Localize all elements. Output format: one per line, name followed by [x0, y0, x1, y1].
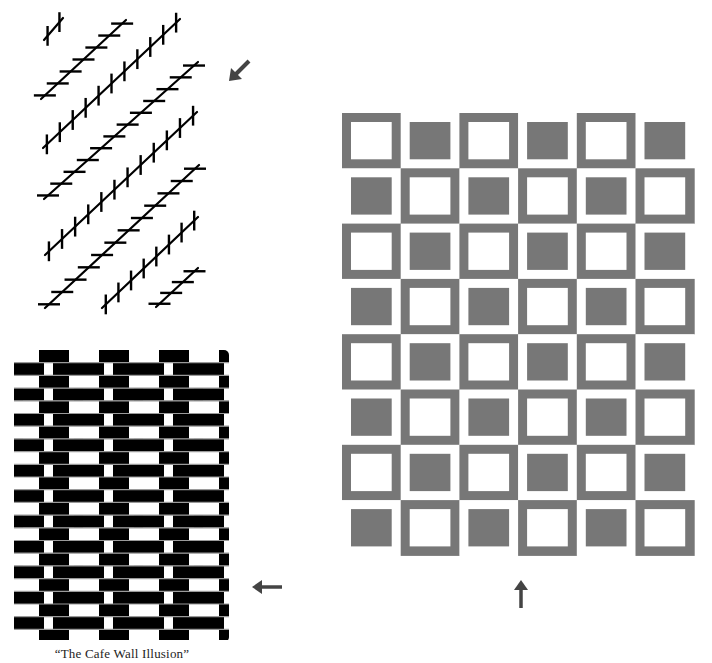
cafe-tile	[159, 579, 189, 592]
inner-square	[410, 233, 451, 270]
inner-square	[645, 122, 686, 159]
cafe-tile	[219, 477, 240, 490]
cafe-tile	[39, 375, 69, 388]
inner-square	[527, 177, 568, 214]
cafe-tile	[159, 477, 189, 490]
zollner-line	[102, 217, 198, 308]
inner-square	[468, 233, 509, 270]
cafe-tile	[39, 426, 69, 439]
cafe-tile	[39, 401, 69, 414]
cafe-tile	[99, 629, 129, 640]
inner-square	[410, 288, 451, 325]
cafe-tile	[99, 604, 129, 617]
arrow-down-left-icon	[226, 56, 256, 86]
cafe-wall-caption: “The Cafe Wall Illusion”	[0, 646, 244, 662]
inner-square	[468, 454, 509, 491]
cafe-tile	[159, 375, 189, 388]
cafe-tile	[219, 604, 240, 617]
cafe-tile	[219, 375, 240, 388]
cafe-tile	[39, 629, 69, 640]
inner-square	[410, 177, 451, 214]
inner-square	[410, 399, 451, 436]
inner-square	[468, 343, 509, 380]
cafe-tile	[219, 553, 240, 566]
inner-square	[645, 343, 686, 380]
cafe-tile	[219, 426, 240, 439]
inner-square	[645, 399, 686, 436]
cafe-tile	[99, 579, 129, 592]
inner-square	[527, 343, 568, 380]
cafe-tile	[159, 452, 189, 465]
inner-square	[410, 509, 451, 546]
inner-square	[351, 233, 392, 270]
inner-square	[351, 122, 392, 159]
inner-square	[351, 177, 392, 214]
cafe-tile	[39, 452, 69, 465]
inner-square	[586, 343, 627, 380]
inner-square	[468, 399, 509, 436]
inner-square	[468, 122, 509, 159]
inner-square	[645, 288, 686, 325]
inner-square	[351, 399, 392, 436]
cafe-tile	[99, 452, 129, 465]
cafe-tile	[219, 401, 240, 414]
inner-square	[410, 343, 451, 380]
cafe-tile	[159, 629, 189, 640]
cafe-tile	[39, 350, 69, 363]
inner-square	[645, 509, 686, 546]
inner-square	[351, 288, 392, 325]
inner-square	[527, 454, 568, 491]
cafe-tile	[39, 604, 69, 617]
cafe-wall-illusion	[0, 340, 240, 640]
inner-square	[410, 454, 451, 491]
arrow-up-icon	[512, 578, 530, 610]
cafe-tile	[99, 426, 129, 439]
arrow-left-icon	[250, 578, 286, 596]
cafe-tile	[99, 401, 129, 414]
inner-square	[527, 233, 568, 270]
cafe-tile	[219, 579, 240, 592]
inner-square	[586, 509, 627, 546]
cafe-tile	[159, 553, 189, 566]
inner-square	[645, 454, 686, 491]
cafe-tile	[39, 477, 69, 490]
cafe-tile	[99, 528, 129, 541]
checkered-squares-illusion	[330, 100, 712, 570]
inner-square	[410, 122, 451, 159]
inner-square	[351, 454, 392, 491]
inner-square	[468, 177, 509, 214]
cafe-tile	[159, 604, 189, 617]
cafe-tile	[39, 553, 69, 566]
inner-square	[586, 454, 627, 491]
cafe-tile	[159, 528, 189, 541]
cafe-tile	[99, 553, 129, 566]
cafe-tile	[99, 375, 129, 388]
inner-square	[586, 233, 627, 270]
cafe-tile	[159, 502, 189, 515]
zollner-illusion	[0, 0, 220, 330]
cafe-tile	[159, 401, 189, 414]
inner-square	[351, 509, 392, 546]
cafe-tile	[39, 502, 69, 515]
inner-square	[527, 122, 568, 159]
inner-square	[527, 509, 568, 546]
cafe-tile	[159, 350, 189, 363]
cafe-tile	[159, 426, 189, 439]
inner-square	[586, 122, 627, 159]
cafe-tile	[219, 452, 240, 465]
inner-square	[586, 399, 627, 436]
inner-square	[645, 233, 686, 270]
inner-square	[586, 177, 627, 214]
inner-square	[645, 177, 686, 214]
inner-square	[586, 288, 627, 325]
cafe-tile	[219, 528, 240, 541]
inner-square	[351, 343, 392, 380]
zollner-line	[156, 268, 198, 307]
cafe-tile	[219, 629, 240, 640]
inner-square	[468, 288, 509, 325]
cafe-tile	[99, 350, 129, 363]
cafe-tile	[99, 502, 129, 515]
cafe-tile	[99, 477, 129, 490]
inner-square	[527, 288, 568, 325]
cafe-tile	[219, 502, 240, 515]
